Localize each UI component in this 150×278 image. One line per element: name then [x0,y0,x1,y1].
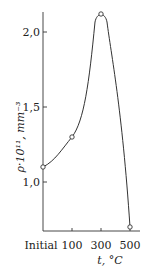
y-tick-label: 1,0 [23,176,41,189]
data-point [70,135,74,139]
x-tick-label: 300 [91,239,112,252]
data-point [41,165,45,169]
data-points [41,12,132,229]
x-tick-label: 100 [62,239,83,252]
x-tick-label: Initial [25,239,58,252]
x-ticks: Initial100300500 [25,228,141,252]
x-tick-label: 500 [120,239,141,252]
x-axis-label: t, °C [97,254,123,267]
axes [43,12,140,231]
data-point [128,225,132,229]
y-axis-label: ρ·10¹¹, mm⁻³ [14,102,27,174]
data-point [99,12,103,16]
chart: 1,01,52,0 Initial100300500 t, °C ρ·10¹¹,… [0,0,150,278]
y-tick-label: 2,0 [23,26,41,39]
series-line [43,15,130,228]
